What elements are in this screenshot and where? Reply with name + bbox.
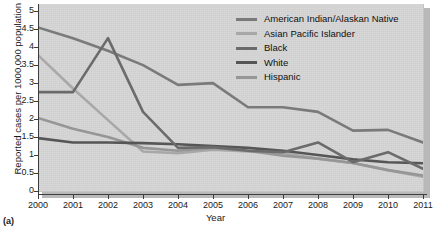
x-tick-label: 2001 xyxy=(56,200,90,210)
y-tick-mark xyxy=(34,119,39,120)
y-tick-mark xyxy=(34,65,39,66)
legend-label: White xyxy=(264,58,288,68)
legend-item: White xyxy=(236,56,399,71)
x-tick-label: 2008 xyxy=(301,200,335,210)
y-axis-title: Reported cases per 1000,000 population xyxy=(12,5,23,175)
legend-swatch-icon xyxy=(236,76,257,79)
y-tick-mark xyxy=(34,47,39,48)
legend-label: American Indian/Alaskan Native xyxy=(264,14,399,24)
y-tick-mark xyxy=(34,101,39,102)
legend-item: Hispanic xyxy=(236,70,399,85)
x-tick-mark xyxy=(318,195,319,199)
x-tick-label: 2000 xyxy=(21,200,55,210)
x-axis-title: Year xyxy=(0,212,431,223)
x-tick-mark xyxy=(388,195,389,199)
legend-swatch-icon xyxy=(236,32,257,35)
figure-caption: (a) xyxy=(3,216,14,226)
y-axis-line xyxy=(38,4,39,195)
y-tick-mark xyxy=(34,83,39,84)
x-tick-mark xyxy=(38,195,39,199)
x-tick-label: 2006 xyxy=(231,200,265,210)
y-tick-mark xyxy=(34,137,39,138)
x-tick-mark xyxy=(423,195,424,199)
x-tick-mark xyxy=(73,195,74,199)
x-tick-label: 2005 xyxy=(196,200,230,210)
y-tick-mark xyxy=(34,29,39,30)
x-tick-label: 2003 xyxy=(126,200,160,210)
legend-swatch-icon xyxy=(236,47,257,50)
x-tick-label: 2004 xyxy=(161,200,195,210)
x-tick-mark xyxy=(283,195,284,199)
x-tick-mark xyxy=(248,195,249,199)
legend-item: Black xyxy=(236,41,399,56)
legend-item: Asian Pacific Islander xyxy=(236,27,399,42)
x-tick-label: 2011 xyxy=(406,200,437,210)
y-tick-label: 0 xyxy=(2,186,34,195)
y-tick-mark xyxy=(34,11,39,12)
legend-item: American Indian/Alaskan Native xyxy=(236,12,399,27)
legend-label: Hispanic xyxy=(264,72,300,82)
y-tick-mark xyxy=(34,155,39,156)
x-tick-label: 2002 xyxy=(91,200,125,210)
x-tick-mark xyxy=(143,195,144,199)
legend-label: Black xyxy=(264,43,287,53)
x-tick-mark xyxy=(213,195,214,199)
x-tick-label: 2010 xyxy=(371,200,405,210)
chart-legend: American Indian/Alaskan NativeAsian Paci… xyxy=(236,12,399,85)
legend-swatch-icon xyxy=(236,61,257,64)
x-tick-label: 2007 xyxy=(266,200,300,210)
y-tick-mark xyxy=(34,173,39,174)
x-axis-line xyxy=(38,194,427,195)
x-tick-mark xyxy=(178,195,179,199)
x-tick-label: 2009 xyxy=(336,200,370,210)
x-tick-mark xyxy=(108,195,109,199)
x-tick-mark xyxy=(353,195,354,199)
y-tick-mark xyxy=(34,191,39,192)
legend-swatch-icon xyxy=(236,18,257,21)
legend-label: Asian Pacific Islander xyxy=(264,29,355,39)
